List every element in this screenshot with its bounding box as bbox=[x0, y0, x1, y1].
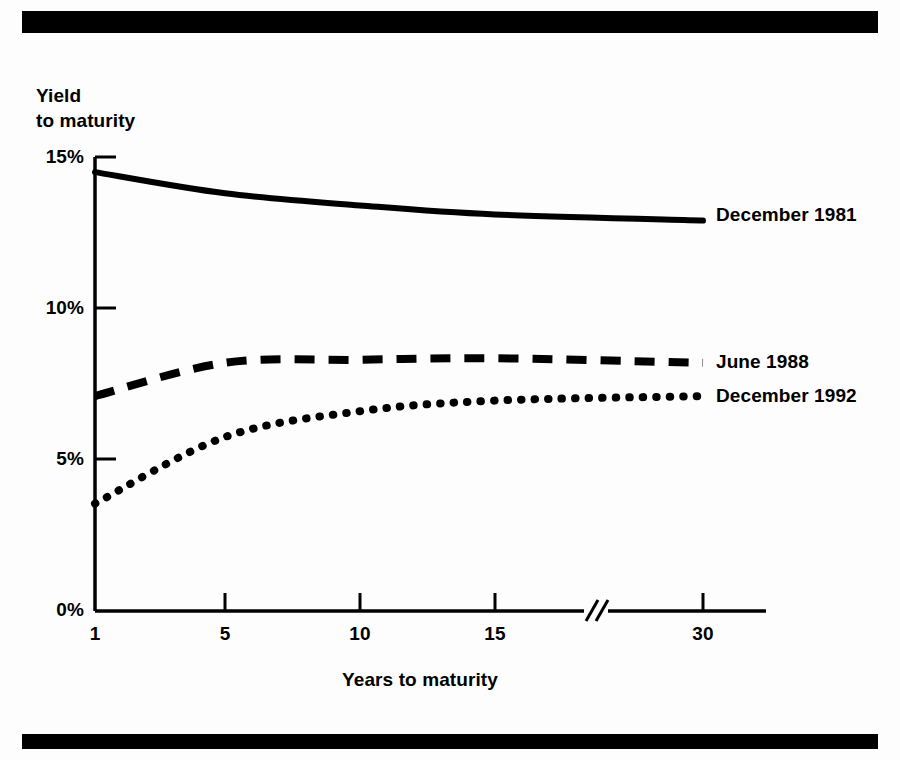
series-line-december-1981 bbox=[95, 172, 703, 221]
x-axis-ticks bbox=[225, 593, 703, 611]
axis-break-marker bbox=[584, 600, 608, 621]
series-line-june-1988 bbox=[95, 358, 703, 396]
series-line-december-1992 bbox=[95, 396, 703, 504]
chart-plot bbox=[0, 0, 900, 760]
figure-page: Yield to maturity Years to maturity 15% … bbox=[0, 0, 900, 760]
y-axis-ticks bbox=[95, 157, 116, 459]
